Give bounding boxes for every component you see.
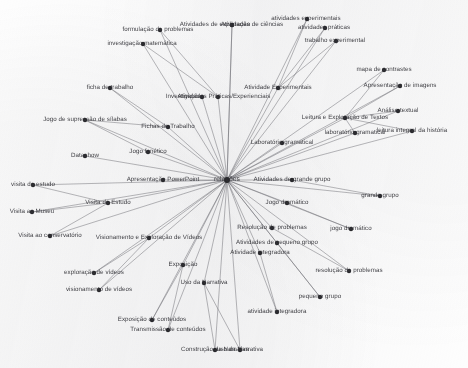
node-label: Apresentação PowerPoint: [127, 177, 200, 184]
node-label: visionamento de vídeos: [66, 287, 132, 294]
node-label: Visita ao conservatório: [18, 233, 82, 240]
node-label: leitura integral da história: [377, 128, 448, 135]
node-label: Atividades de ciências: [221, 22, 283, 29]
edge: [110, 88, 227, 180]
network-diagram-canvas: [0, 0, 468, 368]
edge: [32, 180, 227, 212]
node-label: Atividades Práticas/Experienciais: [178, 94, 271, 101]
node-label: exploração de vídeos: [64, 270, 124, 277]
node-label: Jogo fonético: [129, 149, 166, 156]
node-label: Resolução de problemas: [237, 225, 307, 232]
node-label: Transmissão de conteúdos: [130, 327, 205, 334]
edge: [227, 28, 325, 180]
node-label: atividades práticas: [298, 25, 350, 32]
node-label: Exposição de conteúdos: [118, 317, 187, 324]
node-label: formulação de problemas: [123, 27, 194, 34]
node-label: Visionamento e Exploração de Vídeos: [96, 235, 203, 242]
node-label: Atividades de pequeno grupo: [236, 240, 318, 247]
edge-layer: [32, 19, 412, 350]
node-label: grande grupo: [361, 193, 398, 200]
node-label: Jogo de supressão de sílabas: [43, 117, 127, 124]
edge: [94, 238, 149, 273]
node-label: resolução de problemas: [315, 268, 382, 275]
node-label: Visita de Estudo: [85, 200, 130, 207]
edge: [260, 253, 277, 312]
node-label: Datashow: [71, 153, 99, 160]
node-label: uso da Narrativa: [217, 347, 263, 354]
edge: [94, 180, 227, 273]
edge: [168, 127, 227, 180]
edge: [143, 44, 227, 180]
edge: [227, 25, 232, 180]
node-label: Apresentação de imagens: [363, 83, 436, 90]
node-label: Atividades de grande grupo: [254, 177, 331, 184]
node-label: pequeno grupo: [299, 294, 341, 301]
node-label: Atividade Experimentais: [244, 85, 312, 92]
node-label: visita de estudo: [11, 182, 55, 189]
node-label: ficha de trabalho: [87, 85, 134, 92]
edge: [278, 41, 336, 88]
node-label: Fichas de Trabalho: [141, 124, 195, 131]
node-label: investigação matemática: [107, 41, 176, 48]
edge: [160, 30, 227, 180]
node-label: mapa de contrastes: [356, 67, 411, 74]
node-label: Leitura e Exploração de Textos: [302, 115, 388, 122]
node-label: Atividade integradora: [230, 250, 290, 257]
edge: [227, 41, 336, 180]
node-label: Jogo dramático: [265, 200, 308, 207]
edge: [227, 118, 345, 180]
node-label: Visita ao Museu: [10, 209, 55, 216]
node-label: jogo dramático: [330, 226, 371, 233]
edge: [227, 143, 282, 180]
node-label: atividades experimentais: [271, 16, 340, 23]
node-label: atividade integradora: [248, 309, 307, 316]
edge: [227, 180, 240, 350]
center-node-label: relações: [214, 176, 240, 183]
edge: [143, 44, 218, 97]
node-label: trabalho experimental: [305, 38, 366, 45]
edge: [152, 180, 227, 320]
node-label: Laboratório gramatical: [251, 140, 314, 147]
node-label: Exposição: [169, 262, 198, 269]
edge: [152, 265, 183, 320]
edge: [50, 180, 227, 236]
edge: [202, 97, 227, 180]
node-label: Uso da Narrativa: [180, 280, 227, 287]
